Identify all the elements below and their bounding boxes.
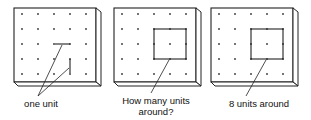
label-8-units-around: 8 units around [217,98,301,109]
geoboard-1 [14,8,101,96]
geoboard-2 [114,8,201,93]
label-one-unit: one unit [18,98,64,109]
label-line-2: around? [112,106,200,117]
label-line-1: How many units [112,95,200,106]
geoboard-3 [211,8,298,96]
label-how-many-units: How many units around? [112,95,200,117]
